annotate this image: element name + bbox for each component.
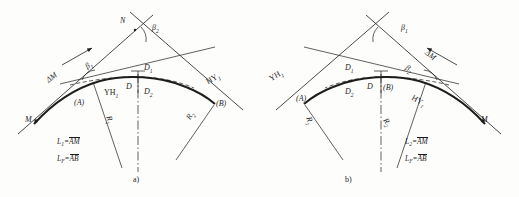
- label-d2-a: D2: [144, 88, 153, 98]
- formula-lf-b: LF=AB: [405, 154, 427, 165]
- label-d1-b: D1: [345, 64, 354, 74]
- label-yh1-a: YH1: [104, 89, 118, 99]
- figure-canvas: N β2 β1 ΔM M YH1 HY1 (A) (B) D1 D D2 R1 …: [0, 0, 519, 197]
- label-d2-b: D2: [345, 88, 354, 98]
- panel-a-geometry: [18, 12, 243, 172]
- formula-l2-b: L2=AM: [405, 137, 428, 148]
- label-beta2-a: β2: [152, 24, 159, 34]
- formula-lf-a: LF=AB: [57, 154, 79, 165]
- caption-panel-a: a): [133, 176, 139, 184]
- label-d1-a: D1: [144, 64, 153, 74]
- label-point-m-a: M: [25, 116, 32, 124]
- caption-panel-b: b): [345, 176, 352, 184]
- label-d-a: D: [126, 83, 132, 91]
- tangent-line-out-b: [276, 12, 389, 110]
- point-marker-n-a: [134, 29, 136, 31]
- panel-b-geometry: [276, 12, 501, 172]
- label-d-b: D: [367, 83, 373, 91]
- label-bracket-b-b: (B): [383, 84, 393, 92]
- label-apex-n-a: N: [120, 17, 125, 25]
- radius-line-r2-b: [305, 105, 343, 160]
- point-marker-m-a: [34, 119, 37, 122]
- angle-arc-beta1-b: [373, 27, 378, 42]
- label-bracket-a-b: (A): [296, 95, 306, 103]
- label-point-m-b: M: [481, 116, 488, 124]
- label-bracket-a-a: (A): [74, 99, 84, 107]
- angle-arc-beta2-a: [141, 27, 146, 42]
- formula-l1-a: L1=AM: [57, 137, 80, 148]
- label-beta1-b: β1: [401, 24, 408, 34]
- label-bracket-b-a: (B): [216, 100, 226, 108]
